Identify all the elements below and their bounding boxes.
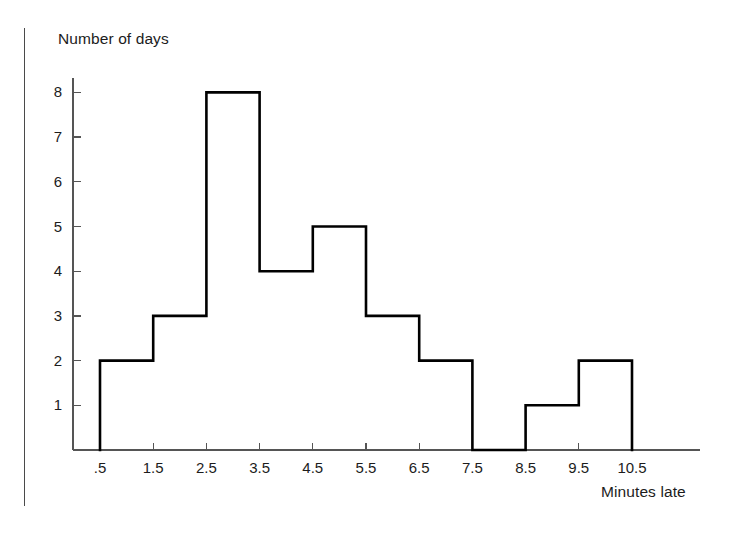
histogram-outline [100,92,632,450]
histogram-figure: Number of days Minutes late 12345678 .51… [0,0,739,540]
tick-marks [73,92,632,450]
histogram-plot [0,0,739,540]
axis-lines [73,78,700,450]
